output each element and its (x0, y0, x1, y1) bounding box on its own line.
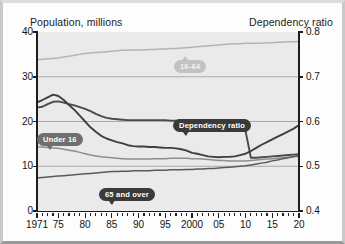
series-line (37, 95, 299, 158)
x-tick-major (218, 213, 219, 218)
y2-tick (299, 121, 303, 122)
y2-tick (299, 76, 303, 77)
callout-dependency-ratio: Dependency ratio (173, 119, 251, 132)
x-tick-minor (74, 213, 75, 216)
x-tick-major (85, 213, 86, 218)
series-line (37, 147, 299, 161)
x-tick-major (245, 213, 246, 218)
x-tick-minor (175, 213, 176, 216)
x-tick-label: 20 (282, 219, 316, 230)
x-tick-major (191, 213, 192, 218)
x-tick-minor (68, 213, 69, 216)
x-tick-minor (106, 213, 107, 216)
x-tick-minor (229, 213, 230, 216)
x-tick-minor (143, 213, 144, 216)
y2-tick-label: 0.4 (306, 205, 336, 216)
x-tick-minor (127, 213, 128, 216)
callout-tail-icon (108, 200, 115, 205)
x-tick-minor (250, 213, 251, 216)
callout-tail-icon (182, 131, 189, 136)
x-tick-minor (181, 213, 182, 216)
x-tick-minor (266, 213, 267, 216)
y-tick-label: 0 (7, 205, 33, 216)
y-tick (33, 121, 37, 122)
x-tick-minor (256, 213, 257, 216)
y-tick-label: 30 (7, 71, 33, 82)
x-tick-major (111, 213, 112, 218)
y-tick-label: 20 (7, 116, 33, 127)
x-tick-minor (261, 213, 262, 216)
x-tick-minor (293, 213, 294, 216)
callout-16-64-text: 16-64 (180, 62, 200, 71)
x-tick-minor (63, 213, 64, 216)
x-tick-major (138, 213, 139, 218)
x-tick-minor (213, 213, 214, 216)
x-tick-minor (52, 213, 53, 216)
y2-tick-label: 0.8 (306, 26, 336, 37)
x-tick-minor (101, 213, 102, 216)
chart-figure: Population, millions Dependency ratio 01… (0, 0, 345, 244)
x-tick-minor (234, 213, 235, 216)
x-tick-minor (170, 213, 171, 216)
callout-under-16-text: Under 16 (43, 135, 77, 144)
x-tick-minor (122, 213, 123, 216)
plot-area (37, 32, 299, 211)
x-tick-minor (117, 213, 118, 216)
x-tick-minor (149, 213, 150, 216)
x-tick-minor (288, 213, 289, 216)
y2-tick (299, 166, 303, 167)
x-tick-minor (154, 213, 155, 216)
x-tick-minor (282, 213, 283, 216)
series-line (37, 41, 299, 59)
callout-dependency-ratio-text: Dependency ratio (179, 121, 245, 130)
x-tick-minor (42, 213, 43, 216)
series-line (37, 101, 299, 157)
left-axis-title: Population, millions (30, 16, 122, 28)
y2-tick-label: 0.7 (306, 71, 336, 82)
x-tick-minor (95, 213, 96, 216)
callout-16-64: 16-64 (174, 60, 206, 73)
callout-under-16: Under 16 (37, 133, 83, 146)
y-tick (33, 210, 37, 211)
x-tick-minor (202, 213, 203, 216)
x-tick-minor (240, 213, 241, 216)
callout-65-and-over-text: 65 and over (105, 190, 149, 199)
y-tick-label: 10 (7, 160, 33, 171)
x-tick-major (165, 213, 166, 218)
series-canvas (37, 32, 299, 211)
x-tick-minor (90, 213, 91, 216)
x-tick-minor (224, 213, 225, 216)
y2-tick-label: 0.5 (306, 160, 336, 171)
x-tick-minor (186, 213, 187, 216)
x-tick-minor (133, 213, 134, 216)
x-tick-minor (159, 213, 160, 216)
x-tick-minor (47, 213, 48, 216)
x-tick-major (58, 213, 59, 218)
y2-tick-label: 0.6 (306, 116, 336, 127)
x-tick-major (272, 213, 273, 218)
bottom-axis-line (36, 211, 299, 213)
y-tick (33, 166, 37, 167)
y2-tick (299, 31, 303, 32)
callout-tail-icon (46, 145, 53, 150)
x-tick-minor (277, 213, 278, 216)
x-tick-minor (208, 213, 209, 216)
x-tick-major (298, 213, 299, 218)
y2-tick (299, 210, 303, 211)
callout-tail-icon (182, 56, 189, 61)
y-tick-label: 40 (7, 26, 33, 37)
y-tick (33, 76, 37, 77)
x-tick-minor (79, 213, 80, 216)
y-tick (33, 31, 37, 32)
x-tick-minor (197, 213, 198, 216)
callout-65-and-over: 65 and over (99, 188, 155, 201)
x-tick-major (36, 213, 37, 218)
